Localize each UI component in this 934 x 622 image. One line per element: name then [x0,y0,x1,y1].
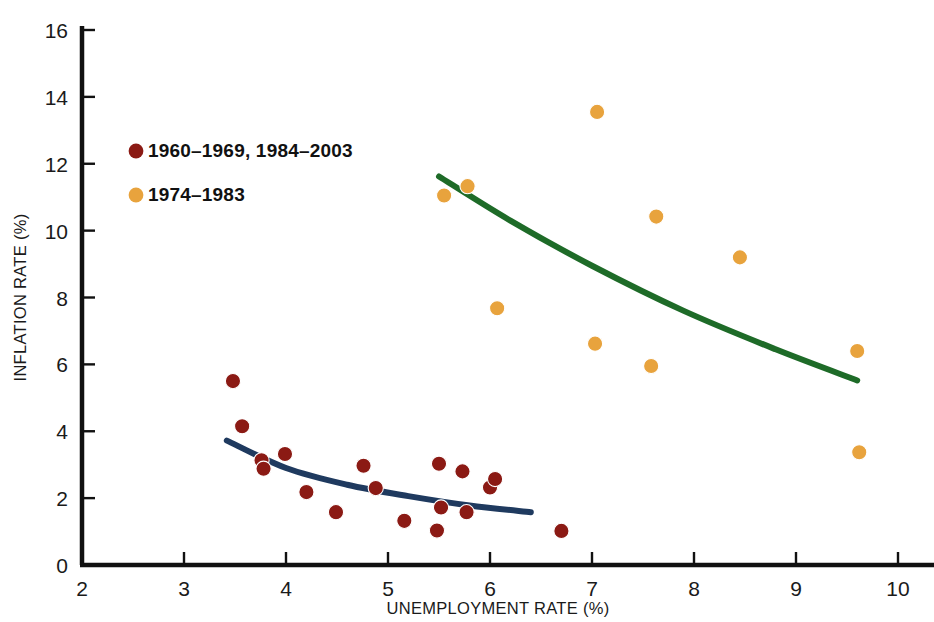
legend-label-1: 1960–1969, 1984–2003 [148,140,353,161]
data-point-series-1 [225,373,240,388]
data-point-series-1 [488,471,503,486]
axes-group [80,26,934,565]
legend-marker-1 [129,144,144,159]
y-tick-label: 10 [45,220,68,243]
data-point-series-2 [852,445,867,460]
y-tick-label: 0 [56,554,68,577]
data-point-series-2 [590,104,605,119]
data-point-series-1 [429,523,444,538]
x-axis-title: UNEMPLOYMENT RATE (%) [387,599,610,617]
x-tick-label: 9 [790,577,802,600]
x-tick-label: 2 [76,577,88,600]
data-point-series-2 [644,358,659,373]
data-point-series-2 [437,188,452,203]
phillips-curve-scatter-chart: 02468101214162345678910UNEMPLOYMENT RATE… [0,0,934,622]
data-point-series-1 [459,505,474,520]
data-point-series-1 [433,500,448,515]
data-point-series-2 [732,250,747,265]
x-tick-label: 5 [382,577,394,600]
y-axis-title: INFLATION RATE (%) [11,214,29,382]
data-point-series-1 [455,464,470,479]
fit-curve-1 [227,441,531,513]
legend-marker-2 [129,188,144,203]
axis-labels-group: 02468101214162345678910UNEMPLOYMENT RATE… [11,19,910,617]
data-point-series-1 [554,523,569,538]
data-point-series-1 [256,461,271,476]
y-tick-label: 4 [56,420,68,443]
chart-legend: 1960–1969, 1984–20031974–1983 [129,140,353,205]
x-tick-label: 10 [886,577,909,600]
data-point-series-2 [850,343,865,358]
data-point-series-2 [460,179,475,194]
x-tick-label: 8 [688,577,700,600]
data-point-series-2 [587,336,602,351]
y-tick-label: 8 [56,287,68,310]
data-point-series-1 [431,456,446,471]
fit-curves-group [227,176,857,512]
x-tick-label: 7 [586,577,598,600]
y-tick-label: 14 [45,86,69,109]
legend-label-2: 1974–1983 [148,184,245,205]
data-point-series-2 [490,301,505,316]
x-tick-label: 4 [280,577,292,600]
data-point-series-1 [397,513,412,528]
data-point-series-1 [368,480,383,495]
data-point-series-1 [328,505,343,520]
plot-area: 02468101214162345678910UNEMPLOYMENT RATE… [0,0,934,622]
data-point-series-2 [649,209,664,224]
x-tick-label: 6 [484,577,496,600]
y-tick-label: 6 [56,353,68,376]
y-tick-label: 12 [45,153,68,176]
y-tick-label: 16 [45,19,68,42]
x-tick-label: 3 [178,577,190,600]
data-point-series-1 [277,446,292,461]
y-tick-label: 2 [56,487,68,510]
data-point-series-1 [299,485,314,500]
data-points-group [225,104,866,538]
fit-curve-2 [439,176,857,380]
data-point-series-1 [235,419,250,434]
data-point-series-1 [356,458,371,473]
